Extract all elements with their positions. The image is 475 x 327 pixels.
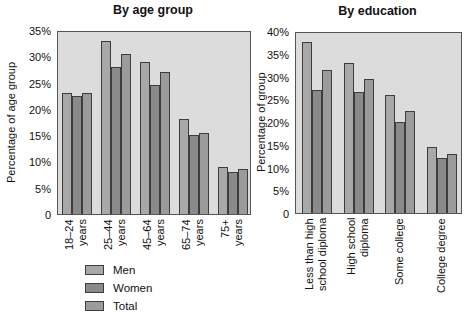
plot-area	[295, 32, 462, 214]
bar-men-group3	[140, 62, 150, 214]
chart-title: By age group	[57, 3, 249, 17]
bar-women-group3	[395, 122, 405, 213]
x-tick-label: 65–74 years	[180, 219, 206, 253]
women-color-swatch	[85, 283, 104, 293]
x-tick-label: Less than high school diploma	[303, 218, 329, 300]
bar-total-group4	[199, 133, 209, 214]
bar-women-group5	[228, 172, 238, 214]
legend-label: Total	[113, 300, 137, 312]
y-tick-label: 0	[238, 208, 289, 220]
legend-item-total: Total	[85, 297, 152, 315]
y-tick-label: 35%	[238, 49, 289, 61]
x-tick-label: College degree	[435, 218, 448, 300]
plot-area	[57, 31, 251, 215]
legend-item-men: Men	[85, 261, 152, 279]
y-tick-label: 35%	[0, 25, 51, 37]
bar-total-group3	[405, 111, 415, 213]
bar-men-group2	[344, 63, 354, 213]
y-tick-label: 5%	[0, 183, 51, 195]
x-tick-label: 25–44 years	[102, 219, 128, 253]
bar-men-group3	[385, 95, 395, 213]
bar-men-group4	[427, 147, 437, 213]
bar-women-group2	[354, 92, 364, 213]
y-tick-label: 10%	[0, 156, 51, 168]
legend-label: Men	[113, 264, 135, 276]
x-tick-label: 45–64 years	[141, 219, 167, 253]
bar-women-group4	[189, 135, 199, 214]
total-color-swatch	[85, 301, 104, 311]
bar-total-group2	[121, 54, 131, 214]
y-tick-label: 20%	[0, 104, 51, 116]
bar-total-group1	[82, 93, 92, 214]
bar-men-group2	[101, 41, 111, 214]
bar-men-group1	[302, 42, 312, 213]
y-tick-label: 20%	[238, 117, 289, 129]
figure: By age group Percentage of age group 35%…	[0, 0, 475, 327]
legend: Men Women Total	[85, 261, 152, 315]
bar-women-group4	[437, 158, 447, 213]
bar-total-group3	[160, 72, 170, 214]
y-tick-label: 30%	[0, 51, 51, 63]
men-color-swatch	[85, 265, 104, 275]
y-tick-label: 15%	[0, 130, 51, 142]
y-tick-label: 5%	[238, 185, 289, 197]
legend-label: Women	[113, 282, 152, 294]
bar-men-group5	[218, 167, 228, 214]
bar-total-group1	[322, 70, 332, 213]
bar-men-group1	[62, 93, 72, 214]
bar-women-group3	[150, 85, 160, 214]
bar-women-group1	[72, 96, 82, 214]
y-tick-label: 0	[0, 209, 51, 221]
education-chart: By education Percentage of group 40%35%3…	[238, 0, 475, 327]
chart-title: By education	[295, 4, 460, 18]
bar-men-group4	[179, 119, 189, 214]
x-tick-label: 18–24 years	[63, 219, 89, 253]
legend-item-women: Women	[85, 279, 152, 297]
y-tick-label: 25%	[238, 94, 289, 106]
bar-total-group2	[364, 79, 374, 213]
y-tick-label: 30%	[238, 72, 289, 84]
y-tick-label: 10%	[238, 163, 289, 175]
y-tick-label: 40%	[238, 26, 289, 38]
bar-total-group4	[447, 154, 457, 213]
x-tick-label: High school diploma	[345, 218, 371, 300]
y-tick-label: 25%	[0, 78, 51, 90]
bar-women-group1	[312, 90, 322, 213]
x-tick-label: Some college	[393, 218, 406, 300]
y-tick-label: 15%	[238, 140, 289, 152]
bar-women-group2	[111, 67, 121, 214]
